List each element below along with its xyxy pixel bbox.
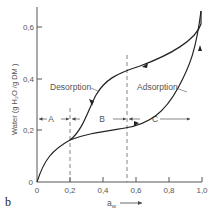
x-tick-label: 0,2: [64, 186, 76, 195]
adsorption-curve: [37, 11, 201, 182]
adsorption-leader: [176, 88, 187, 92]
region-label-a: A: [48, 114, 54, 124]
x-tick-label: 0,8: [163, 186, 175, 195]
region-label-c: C: [152, 114, 158, 124]
desorption-curve: [70, 11, 201, 140]
y-tick-label: 0,2: [23, 126, 35, 135]
x-tick-label: 0,6: [130, 186, 142, 195]
adsorption-arrow-icon: [198, 45, 202, 51]
y-tick-label: 0: [29, 178, 34, 187]
panel-label: b: [5, 195, 11, 209]
region-label-b: B: [99, 114, 105, 124]
x-axis-label: aw: [107, 198, 117, 209]
y-axis-label: Water (g H₂O /g DM ): [10, 63, 19, 135]
desorption-leader: [91, 88, 98, 91]
y-ticks: [37, 27, 42, 130]
adsorption-label: Adsorption: [137, 82, 178, 92]
sorption-isotherm-chart: 0 0,2 0,4 0,6 0 0,2 0,4 0,6 0,8 1,0 aw W…: [0, 0, 218, 213]
y-tick-label: 0,6: [23, 23, 35, 32]
desorption-label: Desorption: [50, 82, 91, 92]
x-tick-label: 0: [35, 186, 40, 195]
x-ticks: [70, 177, 202, 182]
x-tick-label: 1,0: [196, 186, 208, 195]
y-tick-label: 0,4: [23, 75, 35, 84]
x-tick-label: 0,4: [97, 186, 109, 195]
